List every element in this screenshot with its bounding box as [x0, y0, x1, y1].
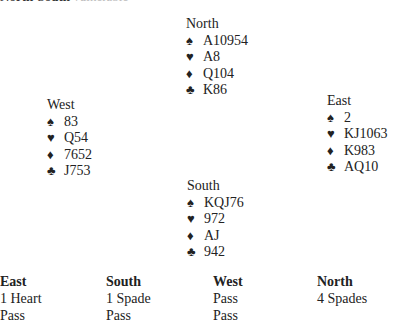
auction-header: West	[213, 273, 243, 290]
hearts-cards: KJ1063	[344, 126, 388, 141]
hearts-row: ♥KJ1063	[327, 126, 388, 143]
club-icon: ♣	[186, 82, 203, 99]
hearts-row: ♥972	[187, 211, 244, 228]
auction-column-west: West Pass Pass	[213, 273, 243, 324]
auction-column-south: South 1 Spade Pass	[106, 273, 151, 324]
diamond-icon: ♦	[47, 147, 64, 164]
diamonds-row: ♦7652	[47, 147, 92, 164]
clipped-header-line: North-South vulnerable	[0, 0, 128, 5]
spade-icon: ♠	[327, 110, 344, 127]
heart-icon: ♥	[47, 130, 64, 147]
hand-label: East	[327, 93, 388, 110]
club-icon: ♣	[187, 244, 204, 261]
diamonds-cards: AJ	[204, 228, 220, 243]
spade-icon: ♠	[186, 33, 203, 50]
diamond-icon: ♦	[327, 143, 344, 160]
spades-row: ♠83	[47, 114, 92, 131]
spades-cards: KQJ76	[204, 195, 244, 210]
auction-header: South	[106, 273, 151, 290]
spades-row: ♠KQJ76	[187, 195, 244, 212]
hand-east: East ♠2 ♥KJ1063 ♦K983 ♣AQ10	[327, 93, 388, 176]
clubs-row: ♣J753	[47, 163, 92, 180]
auction-column-east: East 1 Heart Pass	[0, 273, 42, 324]
auction-bid: Pass	[106, 307, 151, 324]
club-icon: ♣	[327, 159, 344, 176]
spades-row: ♠A10954	[186, 33, 248, 50]
clubs-cards: 942	[204, 244, 225, 259]
auction-bid: 1 Spade	[106, 290, 151, 307]
diamonds-cards: K983	[344, 143, 375, 158]
hearts-cards: A8	[203, 49, 220, 64]
heart-icon: ♥	[327, 126, 344, 143]
diamonds-row: ♦AJ	[187, 228, 244, 245]
clubs-cards: AQ10	[344, 159, 378, 174]
hearts-cards: 972	[204, 211, 225, 226]
auction-bid: 1 Heart	[0, 290, 42, 307]
auction-column-north: North 4 Spades	[317, 273, 367, 307]
clipped-header-light: vulnerable	[73, 0, 128, 4]
clubs-row: ♣K86	[186, 82, 248, 99]
heart-icon: ♥	[187, 211, 204, 228]
hearts-cards: Q54	[64, 130, 88, 145]
hand-west: West ♠83 ♥Q54 ♦7652 ♣J753	[47, 97, 92, 180]
club-icon: ♣	[47, 163, 64, 180]
clubs-cards: K86	[203, 82, 227, 97]
diamond-icon: ♦	[186, 66, 203, 83]
hearts-row: ♥A8	[186, 49, 248, 66]
spades-cards: 2	[344, 110, 351, 125]
hand-south: South ♠KQJ76 ♥972 ♦AJ ♣942	[187, 178, 244, 261]
diamonds-cards: Q104	[203, 66, 234, 81]
diamonds-row: ♦K983	[327, 143, 388, 160]
spades-cards: A10954	[203, 33, 248, 48]
clubs-cards: J753	[64, 163, 90, 178]
spade-icon: ♠	[47, 114, 64, 131]
hearts-row: ♥Q54	[47, 130, 92, 147]
heart-icon: ♥	[186, 49, 203, 66]
auction-bid: 4 Spades	[317, 290, 367, 307]
auction-header: North	[317, 273, 367, 290]
clipped-header-dark: North-South	[0, 0, 73, 4]
auction-header: East	[0, 273, 42, 290]
spades-row: ♠2	[327, 110, 388, 127]
auction-bid: Pass	[213, 307, 243, 324]
clubs-row: ♣AQ10	[327, 159, 388, 176]
auction-bid: Pass	[0, 307, 42, 324]
diamond-icon: ♦	[187, 228, 204, 245]
spades-cards: 83	[64, 114, 78, 129]
diamonds-row: ♦Q104	[186, 66, 248, 83]
hand-label: North	[186, 16, 248, 33]
hand-north: North ♠A10954 ♥A8 ♦Q104 ♣K86	[186, 16, 248, 99]
diamonds-cards: 7652	[64, 147, 92, 162]
auction-bid: Pass	[213, 290, 243, 307]
hand-label: West	[47, 97, 92, 114]
clubs-row: ♣942	[187, 244, 244, 261]
hand-label: South	[187, 178, 244, 195]
spade-icon: ♠	[187, 195, 204, 212]
